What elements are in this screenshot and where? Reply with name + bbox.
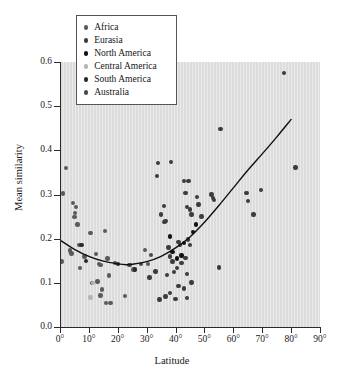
data-point	[170, 259, 174, 263]
data-point	[183, 191, 187, 195]
x-tick	[262, 327, 263, 333]
y-tick	[54, 283, 60, 284]
x-tick	[60, 327, 61, 333]
data-point	[189, 280, 193, 284]
data-point	[176, 284, 180, 288]
data-point	[75, 222, 79, 226]
y-tick-label: 0.3	[4, 190, 52, 200]
data-point	[74, 205, 78, 209]
legend-item-australia[interactable]: Australia	[84, 86, 170, 99]
data-point	[133, 267, 137, 271]
data-point	[127, 263, 131, 267]
y-tick-label: 0.2	[4, 234, 52, 244]
data-point	[100, 287, 104, 291]
x-tick	[176, 327, 177, 333]
y-tick	[54, 195, 60, 196]
x-tick	[233, 327, 234, 333]
y-tick-label: 0.0	[4, 322, 52, 332]
y-tick	[54, 106, 60, 107]
data-point	[159, 212, 163, 216]
data-point	[168, 254, 172, 258]
legend-box: AfricaEurasiaNorth AmericaCentral Americ…	[76, 15, 177, 105]
scatter-plot-figure: 0.00.10.20.30.40.50.6 0°10°20°30°40°50°6…	[0, 0, 344, 380]
y-axis-title: Mean similarity	[13, 108, 24, 248]
y-tick-label: 0.5	[4, 101, 52, 111]
legend-item-label: Eurasia	[94, 35, 123, 46]
data-point	[186, 237, 190, 241]
y-tick-label: 0.6	[4, 57, 52, 67]
data-point	[61, 191, 65, 195]
legend-marker-icon	[84, 38, 88, 42]
data-point	[218, 127, 222, 131]
data-point	[188, 207, 192, 211]
data-point	[108, 301, 112, 305]
data-point	[179, 261, 183, 265]
x-tick	[147, 327, 148, 333]
data-point	[157, 297, 161, 301]
y-tick	[54, 62, 60, 63]
y-axis-line	[60, 62, 61, 328]
data-point	[166, 245, 170, 249]
x-tick	[291, 327, 292, 333]
x-tick	[204, 327, 205, 333]
x-tick	[89, 327, 90, 333]
y-tick-label: 0.1	[4, 278, 52, 288]
data-point	[84, 259, 88, 263]
legend-item-eurasia[interactable]: Eurasia	[84, 34, 170, 47]
data-point	[82, 254, 86, 258]
legend-item-label: Africa	[94, 22, 118, 33]
x-tick	[320, 327, 321, 333]
data-point	[168, 291, 172, 295]
data-point	[147, 275, 151, 279]
data-point	[153, 269, 157, 273]
legend-item-central-america[interactable]: Central America	[84, 60, 170, 73]
data-point	[162, 220, 166, 224]
data-point	[170, 250, 174, 254]
data-point	[244, 191, 248, 195]
data-point	[196, 202, 200, 206]
legend-item-label: South America	[94, 74, 151, 85]
data-point	[69, 251, 73, 255]
data-point	[217, 265, 221, 269]
data-point	[199, 214, 203, 218]
data-point	[165, 273, 169, 277]
y-tick	[54, 150, 60, 151]
data-point	[189, 212, 193, 216]
legend-marker-icon	[84, 25, 88, 29]
legend-marker-icon	[84, 51, 88, 55]
data-point	[251, 212, 255, 216]
x-tick-label: 90°	[300, 334, 340, 344]
y-tick-label: 0.4	[4, 145, 52, 155]
data-point	[179, 253, 183, 257]
data-point	[163, 294, 167, 298]
legend-marker-icon	[84, 90, 88, 94]
data-point	[168, 234, 172, 238]
data-point	[293, 165, 297, 169]
legend-item-label: Australia	[94, 87, 129, 98]
data-point	[88, 295, 92, 299]
data-point	[194, 222, 198, 226]
y-tick	[54, 239, 60, 240]
data-point	[98, 293, 102, 297]
data-point	[105, 256, 109, 260]
data-point	[155, 174, 159, 178]
legend-item-label: North America	[94, 48, 151, 59]
legend-item-north-america[interactable]: North America	[84, 47, 170, 60]
legend-marker-icon	[84, 77, 88, 81]
legend-marker-icon	[84, 64, 88, 68]
data-point	[95, 279, 99, 283]
x-axis-title: Latitude	[0, 355, 344, 366]
x-tick	[118, 327, 119, 333]
data-point	[88, 231, 92, 235]
data-point	[173, 297, 177, 301]
legend-item-africa[interactable]: Africa	[84, 21, 170, 34]
data-point	[103, 229, 107, 233]
data-point	[212, 198, 216, 202]
x-axis-line	[60, 327, 321, 328]
data-point	[72, 215, 76, 219]
legend-item-south-america[interactable]: South America	[84, 73, 170, 86]
legend-item-label: Central America	[94, 61, 157, 72]
data-point	[98, 263, 102, 267]
data-point	[107, 273, 111, 277]
